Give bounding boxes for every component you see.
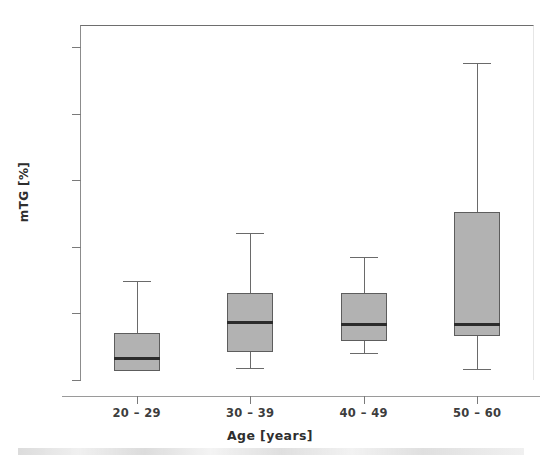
upper-whisker-cap [463,63,491,64]
y-axis-title: mTG [%] [17,122,31,262]
x-axis-tick [137,396,138,404]
boxplot-figure: 2.502.001.501.00.50.00 20 – 2930 – 3940 … [0,0,540,459]
y-axis-tick [72,180,81,181]
x-axis-tick [250,396,251,404]
x-axis-tick-label: 30 – 39 [190,406,310,420]
y-axis-tick [72,47,81,48]
upper-whisker-line [137,281,138,333]
upper-whisker-cap [350,257,378,258]
y-axis-tick [72,114,81,115]
scan-artifact [18,448,524,455]
box-rect [341,293,387,341]
y-axis-tick [72,313,81,314]
box-rect [454,212,500,336]
x-axis-title: Age [years] [0,428,540,443]
upper-whisker-line [364,257,365,293]
upper-whisker-cap [123,281,151,282]
upper-whisker-line [250,233,251,293]
median-line [341,323,387,326]
x-axis-tick-label: 50 – 60 [417,406,537,420]
x-axis-tick [477,396,478,404]
median-line [114,357,160,360]
lower-whisker-cap [350,353,378,354]
lower-whisker-cap [236,368,264,369]
median-line [454,323,500,326]
lower-whisker-line [250,352,251,368]
box-rect [114,333,160,370]
x-axis-tick-label: 20 – 29 [77,406,197,420]
lower-whisker-line [477,336,478,369]
upper-whisker-line [477,63,478,212]
x-axis-baseline [62,396,540,397]
median-line [227,321,273,324]
x-axis-tick-label: 40 – 49 [304,406,424,420]
y-axis-tick [72,380,81,381]
y-axis-tick [72,247,81,248]
lower-whisker-line [364,341,365,353]
lower-whisker-cap [463,369,491,370]
upper-whisker-cap [236,233,264,234]
x-axis-tick [364,396,365,404]
